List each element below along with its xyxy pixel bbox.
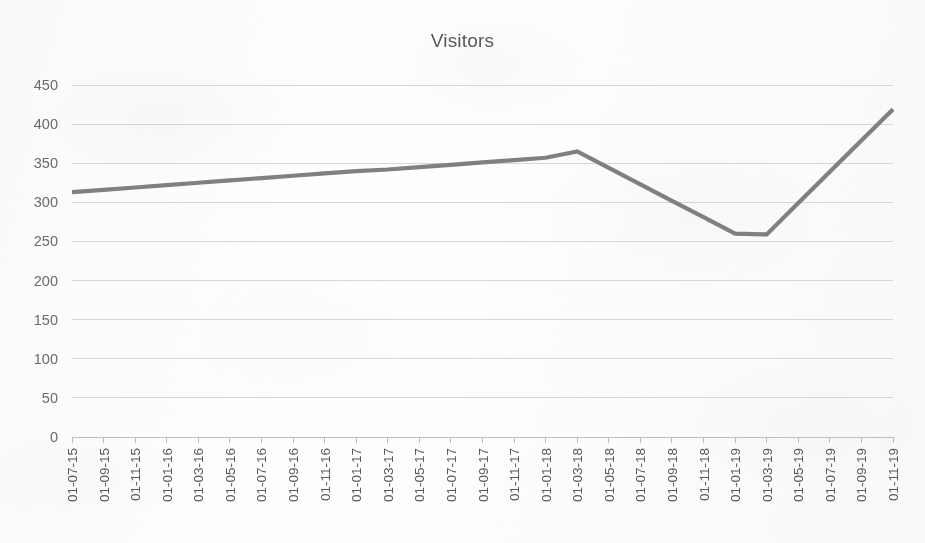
x-axis-tick-label: 01-11-16 [318,448,333,501]
x-axis-tick-label: 01-09-19 [854,448,869,502]
y-axis-tick-label: 100 [34,351,58,367]
x-axis-tick-label: 01-01-18 [539,448,554,502]
data-series-group [72,109,893,234]
x-axis-tick-label: 01-05-18 [602,448,617,502]
x-axis-tick-label: 01-09-15 [97,448,112,502]
y-axis-tick-label: 450 [34,77,58,93]
y-axis-tick-label: 50 [42,390,58,406]
x-axis-tick-label: 01-05-17 [412,448,427,502]
x-axis-tick-label: 01-09-17 [476,448,491,502]
x-axis-tick-labels: 01-07-1501-09-1501-11-1501-01-1601-03-16… [65,448,901,502]
y-axis-tick-label: 150 [34,312,58,328]
x-axis-tick-label: 01-01-19 [728,448,743,502]
gridlines-group [72,85,893,437]
x-axis-tick-label: 01-03-17 [381,448,396,502]
visitors-line-chart: Visitors 450400350300250200150100500 01-… [0,0,925,543]
y-axis-tick-labels: 450400350300250200150100500 [34,77,58,445]
x-axis-tick-marks [72,437,893,443]
x-axis-tick-label: 01-11-17 [507,448,522,501]
y-axis-tick-label: 350 [34,155,58,171]
x-axis-tick-label: 01-03-19 [760,448,775,502]
x-axis-tick-label: 01-03-16 [191,448,206,502]
x-axis-tick-label: 01-07-15 [65,448,80,502]
x-axis-tick-label: 01-11-18 [697,448,712,501]
x-axis-tick-label: 01-05-19 [791,448,806,502]
y-axis-tick-label: 200 [34,273,58,289]
series-line-visitors [72,109,893,234]
x-axis-tick-label: 01-11-19 [886,448,901,501]
y-axis-tick-label: 250 [34,233,58,249]
x-axis-tick-label: 01-09-16 [286,448,301,502]
x-axis-tick-label: 01-07-19 [823,448,838,502]
x-axis-tick-label: 01-07-17 [444,448,459,502]
x-axis-tick-label: 01-07-16 [254,448,269,502]
y-axis-tick-label: 0 [50,429,58,445]
y-axis-tick-label: 400 [34,116,58,132]
plot-area: 450400350300250200150100500 01-07-1501-0… [0,0,925,543]
y-axis-tick-label: 300 [34,194,58,210]
x-axis-tick-label: 01-09-18 [665,448,680,502]
x-axis-tick-label: 01-11-15 [128,448,143,501]
x-axis-tick-label: 01-05-16 [223,448,238,502]
x-axis-tick-label: 01-03-18 [570,448,585,502]
x-axis-tick-label: 01-01-17 [349,448,364,502]
x-axis-tick-label: 01-01-16 [160,448,175,502]
x-axis-tick-label: 01-07-18 [633,448,648,502]
